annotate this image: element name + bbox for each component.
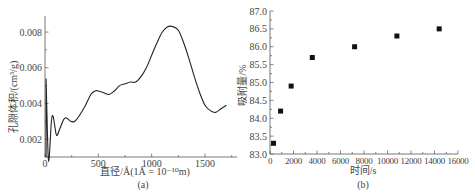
x-tick-label: 16000 (447, 156, 469, 166)
chart-a: 0500100015000.0020.0040.0060.008 孔隙体积/(c… (7, 16, 237, 191)
chart-a-line-series (46, 26, 226, 161)
chart-a-x-axis-title: 直径/Å(1Å = 10⁻¹⁰m) (100, 165, 190, 178)
x-tick-label: 14000 (424, 156, 446, 166)
chart-a-caption: (a) (137, 179, 148, 191)
data-point (289, 84, 294, 89)
data-point (437, 26, 442, 31)
x-tick-label: 6000 (332, 156, 350, 166)
x-tick-label: 10000 (377, 156, 399, 166)
data-point (394, 34, 399, 39)
chart-a-axes (45, 16, 237, 157)
x-tick-label: 2000 (285, 156, 303, 166)
chart-b: 020004000600080001000012000140001600083.… (236, 6, 469, 192)
y-tick-label: 0.008 (20, 27, 43, 38)
chart-b-scatter-series (271, 26, 442, 145)
chart-a-y-axis-title: 孔隙体积/(cm³/g) (7, 61, 20, 133)
chart-b-axes (270, 11, 458, 154)
y-tick-label: 84.0 (250, 113, 268, 124)
chart-a-ticks: 0500100015000.0020.0040.0060.008 (20, 27, 232, 169)
data-point (278, 109, 283, 114)
figure: 0500100015000.0020.0040.0060.008 孔隙体积/(c… (0, 0, 475, 193)
y-tick-label: 85.0 (250, 77, 268, 88)
x-tick-label: 1500 (195, 158, 215, 169)
chart-b-x-axis-title: 时间/s (350, 164, 377, 176)
data-point (271, 141, 276, 146)
y-tick-label: 87.0 (250, 6, 268, 17)
y-tick-label: 83.0 (250, 149, 268, 160)
y-tick-label: 86.0 (250, 41, 268, 52)
y-tick-label: 85.5 (250, 59, 268, 70)
data-point (352, 44, 357, 49)
y-tick-label: 0.002 (20, 134, 43, 145)
y-tick-label: 0.006 (20, 62, 43, 73)
x-tick-label: 0 (43, 158, 48, 169)
chart-b-caption: (b) (357, 179, 369, 191)
x-tick-label: 12000 (400, 156, 422, 166)
y-tick-label: 84.5 (250, 95, 268, 106)
y-tick-label: 83.5 (250, 131, 268, 142)
chart-b-y-axis-title: 吸附量/% (236, 64, 248, 105)
chart-b-ticks: 020004000600080001000012000140001600083.… (250, 6, 470, 167)
x-tick-label: 0 (268, 156, 273, 166)
data-point (310, 55, 315, 60)
x-tick-label: 4000 (309, 156, 327, 166)
y-tick-label: 86.5 (250, 23, 268, 34)
y-tick-label: 0.004 (20, 98, 43, 109)
